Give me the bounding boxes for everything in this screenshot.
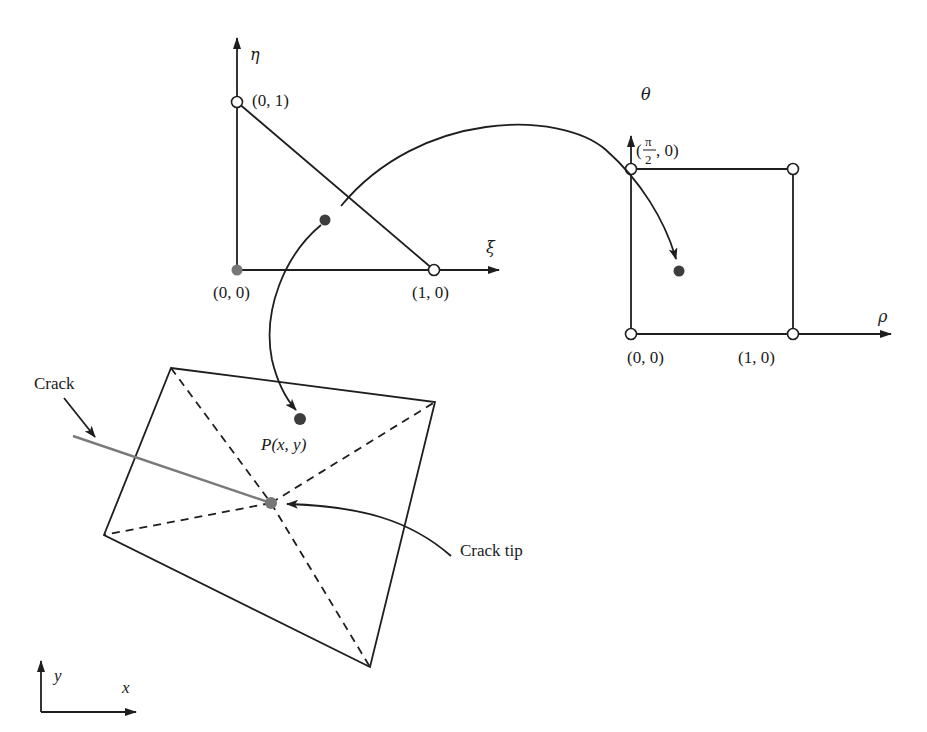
square-node-top-right (788, 164, 799, 175)
rho-axis-label: ρ (877, 307, 888, 326)
diagonal-dash-1 (171, 368, 271, 503)
square-domain: θ ρ (0, 0) (1, 0) ( π 2 , 0) (626, 85, 892, 367)
diagonal-dash-4 (104, 503, 271, 535)
crack-label: Crack (34, 374, 75, 393)
point-p (294, 413, 306, 425)
square-node-1-0 (788, 329, 799, 340)
triangle-label-1-0: (1, 0) (412, 283, 449, 302)
triangle-label-0-1: (0, 1) (252, 91, 289, 110)
x-axis-label: x (121, 678, 130, 697)
square-node-origin (626, 329, 637, 340)
square-label-pi-over-2: ( π 2 , 0) (636, 134, 679, 167)
svg-text:2: 2 (645, 152, 652, 167)
point-p-label: P(x, y) (260, 435, 307, 454)
triangle-node-origin (232, 265, 243, 276)
triangle-label-0-0: (0, 0) (213, 283, 250, 302)
square-mapped-point (674, 266, 685, 277)
square-node-pi2-0 (626, 164, 637, 175)
xy-axes: y x (41, 661, 136, 712)
mapping-diagram: η ξ (0, 0) (1, 0) (0, 1) θ ρ (0, 0) (1, … (0, 0, 927, 732)
triangle-node-0-1 (232, 97, 243, 108)
mapping-arc-triangle-to-square (341, 125, 676, 259)
svg-text:(: ( (636, 141, 642, 160)
crack-tip-pointer-arrow (287, 504, 451, 556)
theta-axis-label: θ (641, 85, 651, 104)
crack-pointer-arrow (64, 398, 95, 437)
y-axis-label: y (52, 666, 62, 685)
square-label-1-0: (1, 0) (738, 348, 775, 367)
quadrilateral-element (104, 368, 435, 667)
xi-axis-label: ξ (486, 238, 496, 257)
triangle-node-1-0 (429, 265, 440, 276)
triangle-domain: η ξ (0, 0) (1, 0) (0, 1) (213, 38, 499, 302)
svg-text:, 0): , 0) (656, 141, 679, 160)
triangle-hypotenuse (237, 102, 434, 270)
eta-axis-label: η (250, 45, 260, 64)
physical-element: P(x, y) Crack Crack tip (34, 368, 523, 667)
square-label-0-0: (0, 0) (627, 348, 664, 367)
svg-text:π: π (645, 134, 652, 149)
crack-tip-point (265, 497, 277, 509)
crack-tip-label: Crack tip (460, 541, 523, 560)
triangle-mapped-point (320, 215, 331, 226)
crack-line (73, 436, 271, 503)
